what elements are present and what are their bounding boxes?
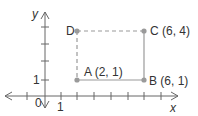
point-d — [74, 28, 79, 33]
point-c — [141, 28, 146, 33]
point-a-label: A (2, 1) — [84, 66, 123, 78]
point-a — [74, 77, 79, 82]
y-axis-label: y — [32, 8, 38, 20]
x-axis — [5, 92, 178, 100]
point-b — [141, 77, 146, 82]
y-axis — [41, 12, 49, 108]
x-tick-label: 1 — [57, 101, 64, 113]
coordinate-plane — [0, 0, 198, 116]
x-axis-label: x — [170, 102, 176, 114]
point-d-label: D — [66, 25, 75, 37]
point-c-label: C (6, 4) — [150, 25, 190, 37]
y-tick-label: 1 — [33, 74, 40, 86]
point-b-label: B (6, 1) — [149, 75, 188, 87]
origin-label: 0 — [35, 97, 42, 109]
